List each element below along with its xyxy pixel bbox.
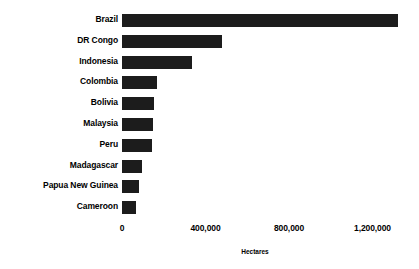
- bar-row: Bolivia: [0, 97, 419, 110]
- category-label: Peru: [0, 138, 118, 151]
- category-label: Malaysia: [0, 117, 118, 130]
- category-label: Madagascar: [0, 159, 118, 172]
- bar-row: Peru: [0, 139, 419, 152]
- bar-dr-congo: [122, 35, 222, 48]
- bar-cameroon: [122, 201, 136, 214]
- bar-indonesia: [122, 56, 192, 69]
- bar-peru: [122, 139, 152, 152]
- horizontal-bar-chart: Brazil DR Congo Indonesia Colombia Boliv…: [0, 0, 419, 269]
- category-label: Papua New Guinea: [0, 179, 118, 192]
- category-label: Indonesia: [0, 55, 118, 68]
- category-label: Brazil: [0, 13, 118, 26]
- bar-row: Madagascar: [0, 160, 419, 173]
- bar-row: Papua New Guinea: [0, 180, 419, 193]
- x-axis: 0 400,000 800,000 1,200,000: [0, 222, 419, 236]
- bar-row: Colombia: [0, 76, 419, 89]
- bar-brazil: [122, 14, 398, 27]
- bar-madagascar: [122, 160, 142, 173]
- bar-papua-new-guinea: [122, 180, 139, 193]
- bar-malaysia: [122, 118, 153, 131]
- category-label: Colombia: [0, 75, 118, 88]
- bar-bolivia: [122, 97, 154, 110]
- bar-row: Cameroon: [0, 201, 419, 214]
- bar-row: Brazil: [0, 14, 419, 27]
- bar-row: DR Congo: [0, 35, 419, 48]
- x-tick-label: 800,000: [274, 222, 304, 234]
- category-label: Bolivia: [0, 96, 118, 109]
- category-label: Cameroon: [0, 200, 118, 213]
- bar-colombia: [122, 76, 157, 89]
- x-tick-label: 400,000: [190, 222, 220, 234]
- bar-row: Indonesia: [0, 56, 419, 69]
- plot-area: Brazil DR Congo Indonesia Colombia Boliv…: [0, 0, 419, 216]
- x-tick-label: 0: [120, 222, 125, 234]
- x-tick-label: 1,200,000: [354, 222, 391, 234]
- x-axis-title: Hectares: [122, 248, 388, 255]
- bar-row: Malaysia: [0, 118, 419, 131]
- category-label: DR Congo: [0, 34, 118, 47]
